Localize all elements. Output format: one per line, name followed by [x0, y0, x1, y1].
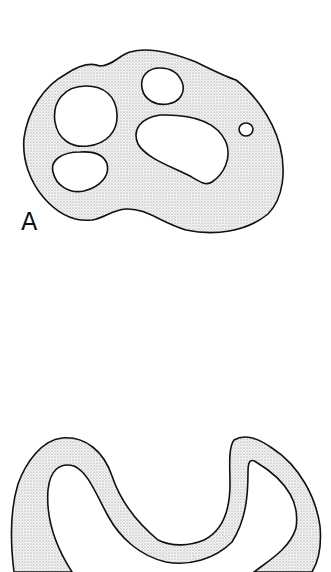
panel-label-a: A: [21, 210, 37, 234]
panel-a-outer-tissue: [24, 50, 283, 233]
panel-b-band: [11, 437, 320, 572]
panel-b-section: [11, 437, 320, 572]
panel-a-section: [24, 50, 283, 233]
figure-drawing: [0, 0, 331, 572]
figure: A: [0, 0, 331, 572]
